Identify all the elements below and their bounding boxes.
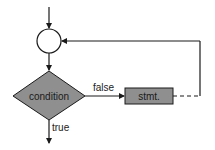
condition-label: condition bbox=[29, 91, 69, 102]
false-edge-label: false bbox=[93, 82, 115, 93]
flowchart-diagram: condition false stmt. true bbox=[0, 0, 215, 150]
stmt-label: stmt. bbox=[138, 91, 160, 102]
junction-circle bbox=[37, 29, 61, 53]
true-edge-label: true bbox=[52, 122, 70, 133]
